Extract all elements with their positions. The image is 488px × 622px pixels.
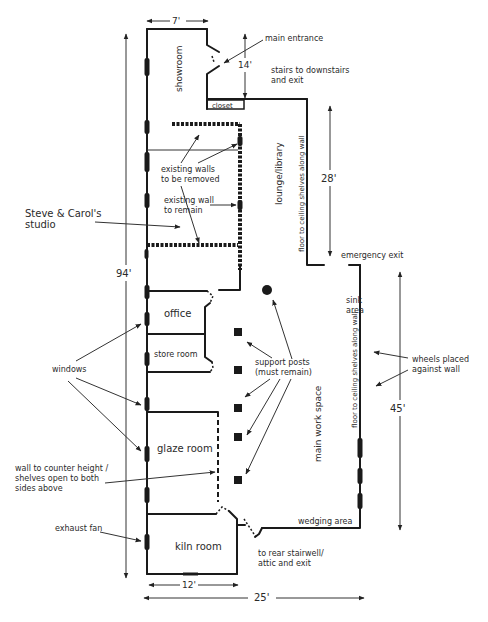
room-label-store-room: store room <box>154 350 198 359</box>
room-label-sink-area: sink <box>346 296 362 305</box>
room-label-wedging-area: wedging area <box>298 517 352 526</box>
annotation-support-posts: support posts (must remain) <box>245 300 312 474</box>
annotation-emergency-exit: emergency exit <box>341 251 403 260</box>
annotation-stairs: stairs to downstairs and exit <box>271 66 349 85</box>
outer-walls <box>147 29 360 574</box>
svg-text:windows: windows <box>52 365 87 374</box>
dimension-12ft: 12' <box>149 580 238 590</box>
svg-text:shelves open to both: shelves open to both <box>15 474 99 483</box>
room-label-lounge: lounge/library <box>274 142 284 205</box>
svg-text:to remain: to remain <box>164 206 203 215</box>
annotation-wall-remain: existing wall to remain <box>164 196 236 215</box>
annotation-studio: Steve & Carol's studio <box>25 208 180 230</box>
svg-text:against wall: against wall <box>412 365 460 374</box>
wall-note-work-shelves: floor to ceiling shelves along wall <box>351 311 359 428</box>
room-label-kiln-room: kiln room <box>175 541 222 552</box>
annotation-counter-wall: wall to counter height / shelves open to… <box>15 464 215 493</box>
dimension-14ft: 14' <box>238 34 252 98</box>
svg-text:main entrance: main entrance <box>265 34 323 43</box>
svg-text:sides above: sides above <box>15 484 63 493</box>
dimension-label: 28' <box>321 173 336 184</box>
room-label-main-work-space: main work space <box>313 385 323 462</box>
annotation-windows: windows <box>52 324 141 451</box>
glaze-room-walls <box>147 412 218 502</box>
annotation-main-entrance: main entrance <box>224 34 323 63</box>
dimension-label: 7' <box>172 16 180 26</box>
wall-note-lounge-shelves: floor to ceiling shelves along wall <box>298 135 306 252</box>
svg-text:exhaust fan: exhaust fan <box>55 524 102 533</box>
svg-text:emergency exit: emergency exit <box>341 251 403 260</box>
svg-text:to be removed: to be removed <box>161 175 220 184</box>
svg-text:stairs to downstairs: stairs to downstairs <box>271 66 349 75</box>
svg-text:wall to counter height /: wall to counter height / <box>15 464 108 473</box>
room-label-glaze-room: glaze room <box>157 443 213 454</box>
svg-text:and exit: and exit <box>271 76 303 85</box>
svg-text:existing wall: existing wall <box>164 196 214 205</box>
dimension-45ft: 45' <box>390 272 405 530</box>
svg-text:attic and exit: attic and exit <box>258 559 311 568</box>
svg-text:existing walls: existing walls <box>161 165 215 174</box>
dimension-label: 12' <box>182 580 196 590</box>
svg-text:studio: studio <box>25 219 56 230</box>
dimension-25ft: 25' <box>144 592 364 603</box>
room-label-sink-area: area <box>346 306 364 315</box>
room-label-office: office <box>164 308 191 319</box>
svg-text:to rear stairwell/: to rear stairwell/ <box>258 549 324 558</box>
dimension-label: 25' <box>254 592 269 603</box>
annotation-exhaust-fan: exhaust fan <box>55 524 141 541</box>
floor-plan-diagram: 7' 14' 28' 94' 45' 12' 25' <box>0 0 488 622</box>
dimension-label: 45' <box>390 403 405 414</box>
office-store-walls <box>147 291 213 372</box>
dimension-label: 14' <box>238 60 252 70</box>
svg-text:Steve & Carol's: Steve & Carol's <box>25 208 102 219</box>
support-posts <box>234 285 272 484</box>
dimension-label: 94' <box>116 268 131 279</box>
svg-text:support posts: support posts <box>255 358 310 367</box>
svg-text:wheels placed: wheels placed <box>412 355 469 364</box>
annotation-wheels: wheels placed against wall <box>374 352 469 386</box>
dimension-28ft: 28' <box>321 106 336 256</box>
svg-text:(must remain): (must remain) <box>255 368 312 377</box>
dimension-7ft: 7' <box>147 16 208 26</box>
annotation-rear-stairwell: to rear stairwell/ attic and exit <box>258 549 324 568</box>
dimension-94ft: 94' <box>116 34 131 578</box>
room-label-showroom: showroom <box>174 45 184 92</box>
room-label-closet: closet <box>212 102 233 110</box>
